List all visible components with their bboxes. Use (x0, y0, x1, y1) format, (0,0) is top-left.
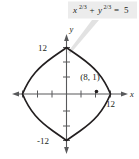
equation-y-base: y (97, 5, 102, 15)
math-figure: x 2/3 + y 2/3 = 5 (0, 0, 139, 159)
y-axis-label: y (69, 24, 74, 34)
plotted-point-8-1 (95, 90, 99, 94)
x-axis-label: x (129, 89, 134, 99)
equation-equals: = (114, 5, 119, 15)
x-tick-label-positive-12: 12 (106, 99, 115, 109)
equation-x-base: x (72, 5, 77, 15)
equation-plus: + (90, 5, 95, 15)
y-tick-label-negative-12: -12 (37, 136, 49, 146)
y-tick-label-positive-12: 12 (38, 43, 47, 53)
point-label-8-1: (8, 1) (80, 72, 100, 82)
equation-x-exponent: 2/3 (79, 4, 87, 10)
equation-rhs: 5 (124, 5, 129, 15)
astroid-plot: x 2/3 + y 2/3 = 5 (0, 0, 139, 159)
equation-y-exponent: 2/3 (104, 4, 112, 10)
